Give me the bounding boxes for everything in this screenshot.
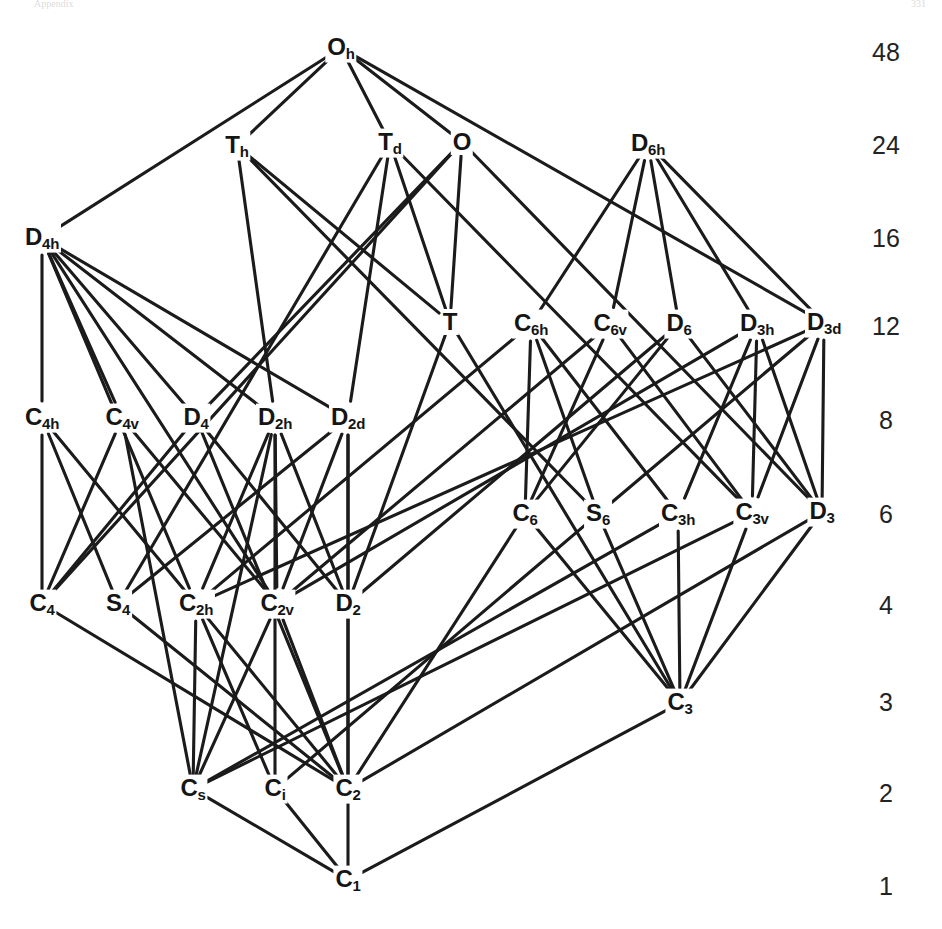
- node-c6[interactable]: C6: [510, 500, 539, 529]
- node-c2v[interactable]: C2v: [258, 590, 295, 619]
- lattice-edge: [205, 796, 336, 873]
- node-d4h[interactable]: D4h: [23, 224, 61, 253]
- node-subscript: 3v: [753, 510, 769, 527]
- node-base-symbol: D: [807, 308, 824, 335]
- node-base-symbol: D: [335, 589, 352, 616]
- node-subscript: 1: [353, 877, 361, 894]
- node-th[interactable]: Th: [223, 132, 250, 161]
- node-base-symbol: C: [179, 589, 196, 616]
- node-oh[interactable]: Oh: [325, 34, 356, 63]
- order-tick-48: 48: [872, 38, 900, 67]
- node-c4v[interactable]: C4v: [103, 404, 140, 433]
- node-base-symbol: C: [667, 688, 684, 715]
- lattice-edge: [292, 333, 743, 596]
- node-subscript: 6h: [648, 141, 665, 158]
- node-td[interactable]: Td: [376, 129, 403, 158]
- node-subscript: 3: [685, 700, 693, 717]
- lattice-edge: [678, 531, 680, 689]
- node-subscript: i: [282, 786, 286, 803]
- node-base-symbol: C: [264, 774, 281, 801]
- lattice-edge: [247, 58, 331, 137]
- node-c4[interactable]: C4: [27, 590, 56, 619]
- node-subscript: 6h: [531, 321, 548, 338]
- lattice-edge: [129, 613, 337, 780]
- node-subscript: 4: [122, 601, 130, 618]
- node-base-symbol: D: [183, 403, 200, 430]
- node-base-symbol: C: [335, 865, 352, 892]
- node-d2h[interactable]: D2h: [256, 404, 294, 433]
- node-subscript: 3d: [824, 320, 841, 337]
- edge-group: [42, 55, 824, 873]
- node-d4[interactable]: D4: [181, 404, 210, 433]
- node-subscript: 6: [530, 511, 538, 528]
- node-base-symbol: C: [105, 403, 122, 430]
- lattice-edge: [822, 340, 824, 498]
- order-tick-3: 3: [879, 688, 893, 717]
- node-c2h[interactable]: C2h: [177, 590, 215, 619]
- node-c3h[interactable]: C3h: [659, 500, 697, 529]
- node-c3v[interactable]: C3v: [733, 499, 770, 528]
- lattice-edge: [394, 156, 445, 308]
- node-cs[interactable]: Cs: [178, 775, 207, 804]
- node-d2[interactable]: D2: [333, 590, 362, 619]
- node-d3h[interactable]: D3h: [738, 310, 776, 339]
- node-base-symbol: T: [378, 128, 392, 155]
- order-tick-24: 24: [872, 131, 900, 160]
- node-subscript: 3h: [678, 511, 695, 528]
- lattice-edge: [212, 330, 809, 597]
- node-base-symbol: O: [453, 128, 471, 155]
- node-t[interactable]: T: [441, 309, 459, 335]
- order-tick-1: 1: [879, 872, 893, 901]
- lattice-edge: [360, 710, 667, 874]
- node-subscript: 4h: [42, 415, 59, 432]
- node-c6v[interactable]: C6v: [591, 310, 628, 339]
- node-d2d[interactable]: D2d: [329, 404, 367, 433]
- node-base-symbol: T: [443, 308, 457, 335]
- node-c6h[interactable]: C6h: [512, 310, 550, 339]
- node-base-symbol: C: [512, 499, 529, 526]
- node-base-symbol: C: [29, 589, 46, 616]
- node-base-symbol: D: [666, 309, 683, 336]
- node-c1[interactable]: C1: [333, 866, 362, 895]
- node-subscript: 2: [353, 601, 361, 618]
- lattice-edge: [193, 621, 195, 775]
- node-base-symbol: C: [180, 774, 197, 801]
- lattice-edge: [451, 156, 461, 308]
- lattice-edge: [687, 335, 813, 501]
- node-c3[interactable]: C3: [665, 689, 694, 718]
- node-base-symbol: C: [514, 309, 531, 336]
- node-base-symbol: C: [593, 309, 610, 336]
- node-c2[interactable]: C2: [333, 775, 362, 804]
- lattice-edge: [752, 341, 756, 496]
- node-base-symbol: D: [25, 223, 42, 250]
- node-s4[interactable]: S4: [104, 590, 132, 619]
- node-subscript: 6: [684, 321, 692, 338]
- order-tick-12: 12: [872, 312, 900, 341]
- lattice-edge: [525, 341, 530, 500]
- node-subscript: 3h: [757, 321, 774, 338]
- node-o[interactable]: O: [451, 129, 473, 155]
- lattice-edge: [283, 620, 343, 776]
- node-d3d[interactable]: D3d: [805, 309, 843, 338]
- node-subscript: 4: [47, 601, 55, 618]
- lattice-edge: [133, 431, 266, 591]
- node-d3[interactable]: D3: [807, 498, 836, 527]
- node-base-symbol: S: [586, 499, 602, 526]
- node-d6h[interactable]: D6h: [629, 130, 667, 159]
- lattice-edge: [685, 340, 751, 499]
- node-subscript: 4: [201, 415, 209, 432]
- node-base-symbol: D: [331, 403, 348, 430]
- node-s6[interactable]: S6: [584, 500, 612, 529]
- lattice-edge: [351, 157, 388, 401]
- node-c4h[interactable]: C4h: [23, 404, 61, 433]
- lattice-edge: [614, 161, 645, 308]
- node-base-symbol: C: [335, 774, 352, 801]
- node-d6[interactable]: D6: [664, 310, 693, 339]
- node-base-symbol: C: [25, 403, 42, 430]
- node-ci[interactable]: Ci: [262, 775, 287, 804]
- lattice-edge: [248, 155, 439, 313]
- node-base-symbol: O: [327, 33, 345, 60]
- node-base-symbol: C: [260, 589, 277, 616]
- order-tick-16: 16: [872, 224, 900, 253]
- order-tick-6: 6: [879, 500, 893, 529]
